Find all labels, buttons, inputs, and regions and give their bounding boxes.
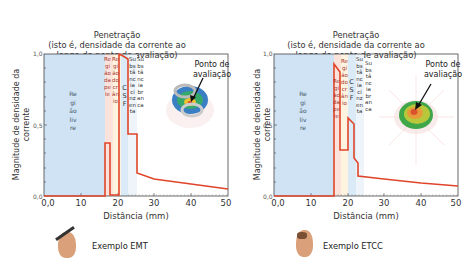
x-tick: 20 xyxy=(113,198,124,208)
y-tick: 1,0 xyxy=(33,50,43,57)
region-label-branca: Substância branca xyxy=(365,60,372,112)
region-label-branca: Substância branca xyxy=(137,56,144,108)
x-tick: 0,0 xyxy=(271,198,285,208)
callout-line: avaliação xyxy=(187,70,237,80)
example-label: Exemplo EMT xyxy=(92,241,148,251)
x-tick: 10 xyxy=(306,198,317,208)
region-label-pele: Região da pele xyxy=(104,56,111,98)
x-tick: 30 xyxy=(379,198,390,208)
callout-label: Ponto de avaliação xyxy=(187,60,237,80)
panel-emt: Penetração (isto é, densidade da corrent… xyxy=(0,0,234,273)
region-csf xyxy=(121,54,128,196)
region-label-pele: Região da pele xyxy=(333,78,340,120)
etcc-field-visualization xyxy=(379,75,454,165)
region-label-livre: Região livre xyxy=(299,90,307,133)
callout-line: avaliação xyxy=(418,70,468,80)
region-label-cinzenta: Substância cinzenta xyxy=(129,56,136,115)
example-label: Exemplo ETCC xyxy=(323,241,383,251)
x-tick: 20 xyxy=(343,198,354,208)
region-label-livre: Região livre xyxy=(69,90,77,133)
callout-line: Ponto de xyxy=(187,60,237,70)
y-tick: 1,0 xyxy=(263,50,273,57)
callout-label: Ponto de avaliação xyxy=(418,60,468,80)
callout-line: Ponto de xyxy=(418,60,468,70)
x-tick: 0,0 xyxy=(41,198,55,208)
region-label-cinzenta: Substância cinzenta xyxy=(356,56,363,115)
x-tick: 50 xyxy=(451,198,462,208)
x-tick: 50 xyxy=(221,198,232,208)
region-label-cranio: Região do crânio xyxy=(341,58,348,107)
x-axis-label: Distância (mm) xyxy=(103,211,168,221)
panel-etcc: Penetração (isto é, densidade da corrent… xyxy=(234,0,468,273)
x-tick: 30 xyxy=(149,198,160,208)
y-tick: 0,5 xyxy=(33,122,43,129)
emt-chart-plot xyxy=(0,0,234,273)
etcc-chart-plot xyxy=(234,0,468,273)
region-label-csf: CSF xyxy=(348,78,355,102)
y-tick: 0,5 xyxy=(263,122,273,129)
x-tick: 40 xyxy=(416,198,427,208)
emt-field-visualization xyxy=(166,85,214,128)
region-label-cranio: Região do crânio xyxy=(112,56,119,105)
x-tick: 40 xyxy=(186,198,197,208)
x-axis-label: Distância (mm) xyxy=(333,211,398,221)
electrode-icon xyxy=(297,232,307,239)
x-tick: 10 xyxy=(76,198,87,208)
region-label-csf: CSF xyxy=(121,84,128,108)
